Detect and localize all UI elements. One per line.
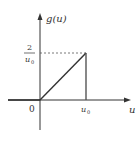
- svg-text:0: 0: [87, 109, 90, 115]
- y-axis-label: g(u): [46, 13, 67, 24]
- ramp-line: [40, 53, 86, 100]
- x-axis-arrow-icon: [124, 98, 131, 103]
- svg-text:2: 2: [27, 43, 32, 52]
- svg-text:u: u: [81, 105, 86, 114]
- x-tick-label: u 0: [81, 105, 90, 115]
- y-tick-label: 2 u 0: [24, 43, 35, 65]
- svg-text:u: u: [25, 55, 30, 64]
- x-axis-label: u: [129, 104, 135, 115]
- svg-text:0: 0: [31, 59, 34, 65]
- diagram: g(u) u 0 u 0 2 u 0: [0, 0, 139, 141]
- origin-label: 0: [29, 104, 35, 114]
- y-axis-arrow-icon: [38, 13, 43, 20]
